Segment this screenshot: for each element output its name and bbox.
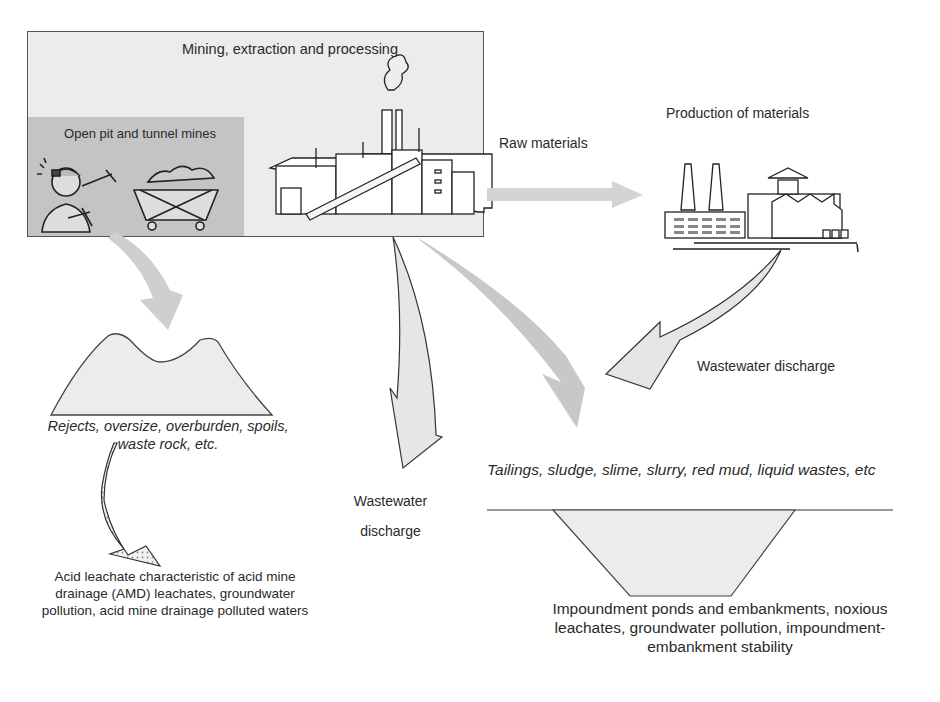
wastewater-mid-label: Wastewater discharge xyxy=(333,486,448,546)
rejects-label: Rejects, oversize, overburden, spoils, w… xyxy=(38,417,298,453)
raw-materials-label: Raw materials xyxy=(499,135,588,151)
acid-drainage-arrow xyxy=(101,443,160,566)
production-label: Production of materials xyxy=(666,105,809,121)
mining-label: Mining, extraction and processing xyxy=(150,40,430,58)
acid-leachate-label: Acid leachate characteristic of acid min… xyxy=(40,569,310,620)
miner-icon xyxy=(37,158,116,232)
open-pit-label: Open pit and tunnel mines xyxy=(40,126,240,142)
processing-plant-icon xyxy=(270,55,492,220)
tailings-label: Tailings, sludge, slime, slurry, red mud… xyxy=(487,459,907,481)
wastewater-mid-arrow xyxy=(390,237,442,468)
impoundment-label: Impoundment ponds and embankments, noxio… xyxy=(520,599,920,656)
mine-cart-icon xyxy=(134,166,218,230)
impoundment-pond-icon xyxy=(553,510,795,596)
factory-icon xyxy=(665,164,858,252)
wastewater-right-label: Wastewater discharge xyxy=(697,358,835,374)
waste-heap-icon xyxy=(51,334,272,415)
open-pit-to-rejects-arrow xyxy=(108,232,183,330)
raw-materials-arrow xyxy=(487,181,643,208)
mining-to-tailings-arrow xyxy=(418,238,585,428)
